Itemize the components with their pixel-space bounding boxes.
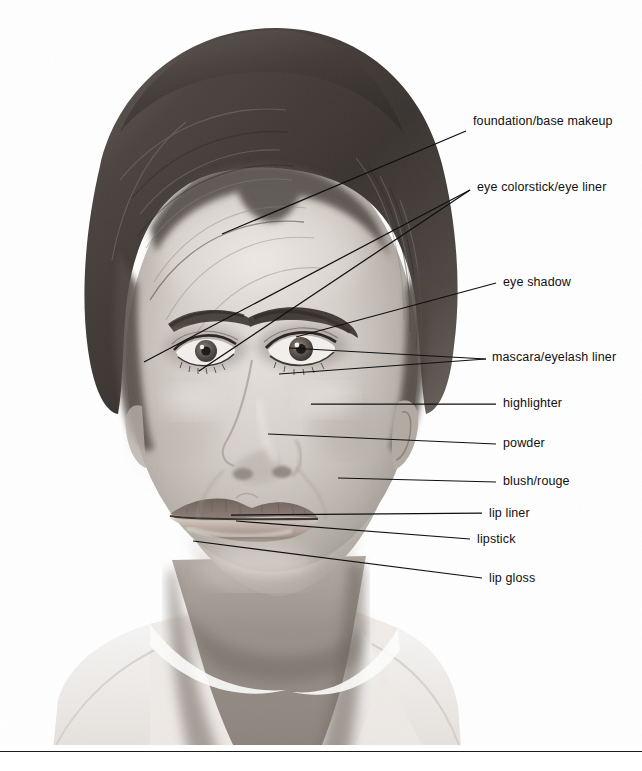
callout-label-eye-shadow: eye shadow [503, 275, 571, 289]
callout-label-powder: powder [503, 436, 545, 450]
callout-label-blush: blush/rouge [503, 474, 570, 488]
footer-rule [0, 751, 642, 752]
callout-label-foundation: foundation/base makeup [473, 114, 613, 128]
callout-label-lip-liner: lip liner [489, 506, 530, 520]
callout-label-lip-gloss: lip gloss [489, 571, 535, 585]
callout-label-eye-colorstick: eye colorstick/eye liner [477, 180, 606, 194]
callout-label-mascara: mascara/eyelash liner [492, 350, 616, 364]
callout-label-lipstick: lipstick [477, 532, 516, 546]
callout-label-highlighter: highlighter [503, 396, 562, 410]
